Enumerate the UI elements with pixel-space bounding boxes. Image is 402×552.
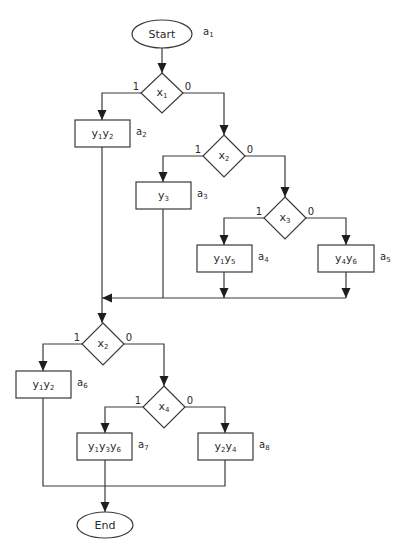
arrowhead-icon <box>159 172 168 182</box>
state-label-a2: a2 <box>136 127 147 139</box>
branch-false-label: 0 <box>247 145 253 155</box>
state-label-a5: a5 <box>380 252 391 264</box>
operation-label: y1y2 <box>33 378 55 391</box>
end-label: End <box>95 520 116 531</box>
state-label-a1: a1 <box>203 27 214 39</box>
branch-false-label: 0 <box>187 396 193 406</box>
start-label: Start <box>149 29 176 40</box>
connector-line <box>163 156 203 182</box>
condition-label: x1 <box>157 87 168 100</box>
state-label-a7: a7 <box>138 440 149 452</box>
arrowhead-icon <box>39 361 48 371</box>
condition-label: x3 <box>280 212 291 225</box>
connector-line <box>185 407 225 433</box>
arrowhead-icon <box>220 125 229 135</box>
state-label-a8: a8 <box>259 440 270 452</box>
operation-label: y4y6 <box>335 252 357 265</box>
arrowhead-icon <box>221 423 230 433</box>
branch-true-label: 1 <box>74 333 80 343</box>
connector-line <box>306 218 346 245</box>
state-label-a6: a6 <box>77 378 88 390</box>
operation-label: y3 <box>158 189 169 202</box>
arrowhead-icon <box>101 423 110 433</box>
arrowhead-icon <box>342 288 351 298</box>
branch-true-label: 1 <box>135 396 141 406</box>
arrowhead-icon <box>101 502 110 512</box>
arrowhead-icon <box>220 288 229 298</box>
condition-label: x2 <box>98 338 109 351</box>
operation-label: y1y2 <box>92 127 114 140</box>
branch-false-label: 0 <box>308 207 314 217</box>
arrowhead-icon <box>160 376 169 386</box>
arrowhead-icon <box>102 294 112 303</box>
state-label-a4: a4 <box>258 252 269 264</box>
arrowhead-icon <box>158 63 167 73</box>
branch-false-label: 0 <box>126 333 132 343</box>
connector-line <box>183 93 224 135</box>
connector-line <box>224 218 264 245</box>
connector-line <box>43 344 82 371</box>
operation-label: y1y3y6 <box>88 440 121 453</box>
arrowhead-icon <box>98 110 107 120</box>
arrowhead-icon <box>281 187 290 197</box>
arrowhead-icon <box>98 313 107 323</box>
branch-true-label: 1 <box>133 82 139 92</box>
operation-label: y2y4 <box>215 440 237 453</box>
branch-true-label: 1 <box>256 207 262 217</box>
state-label-a3: a3 <box>197 189 208 201</box>
flowchart-canvas: StartEnda1x110x210x310x210x410y1y2a2y3a3… <box>0 0 402 552</box>
condition-label: x2 <box>219 150 230 163</box>
condition-label: x4 <box>159 401 170 414</box>
arrowhead-icon <box>342 235 351 245</box>
branch-true-label: 1 <box>195 145 201 155</box>
operation-label: y1y5 <box>214 252 236 265</box>
connector-line <box>105 407 143 433</box>
arrowhead-icon <box>220 235 229 245</box>
flowchart-svg <box>0 0 402 552</box>
connector-line <box>245 156 285 197</box>
connector-line <box>102 93 141 120</box>
connector-line <box>124 344 164 386</box>
branch-false-label: 0 <box>185 82 191 92</box>
